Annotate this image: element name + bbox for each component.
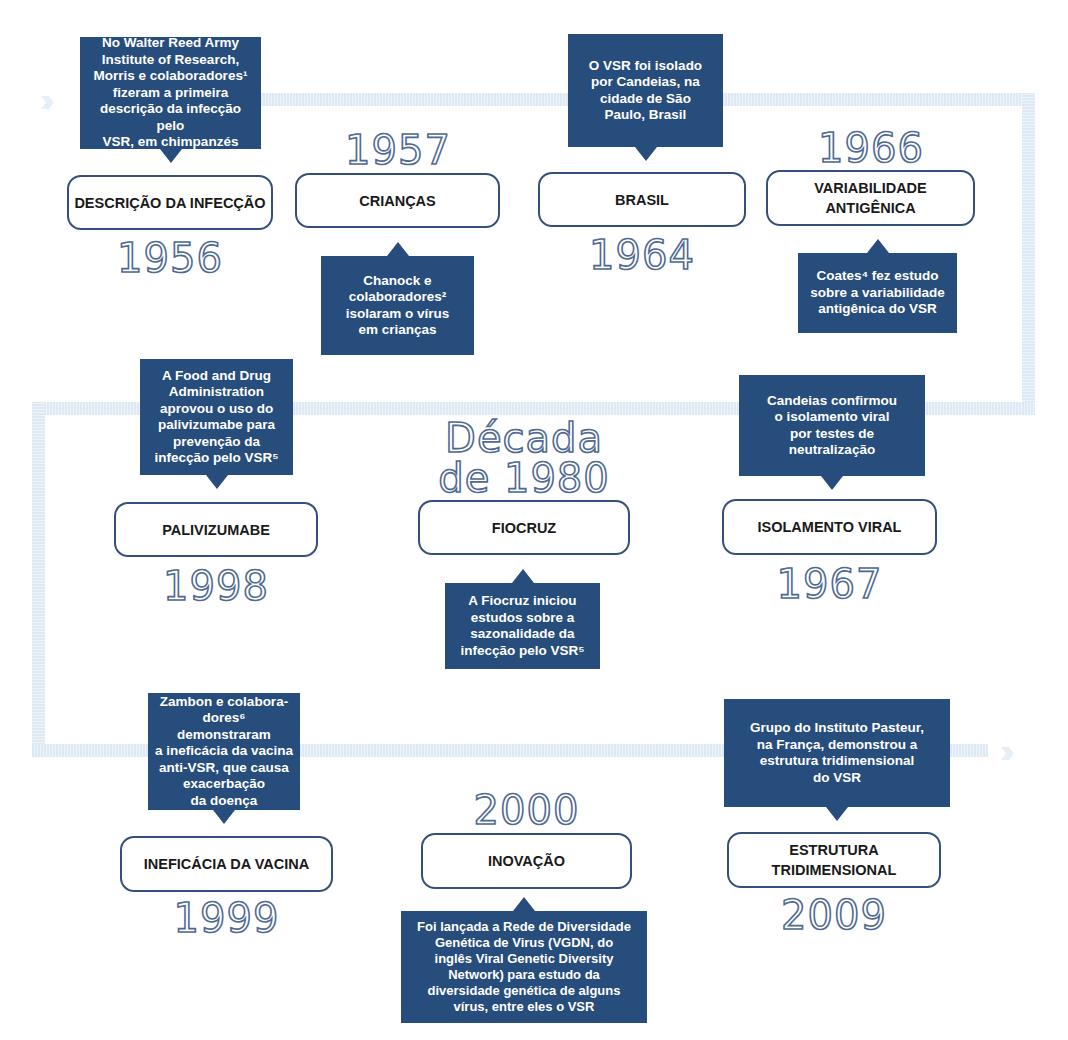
year-1966: 1966 bbox=[767, 128, 975, 168]
event-box-isolamento-viral: ISOLAMENTO VIRAL bbox=[722, 499, 937, 555]
event-box-brasil: BRASIL bbox=[538, 172, 746, 227]
callout-variabilidade-antigenica: Coates⁴ fez estudo sobre a variabilidade… bbox=[798, 253, 957, 333]
callout-palivizumabe: A Food and Drug Administration aprovou o… bbox=[140, 359, 293, 475]
start-chevron-icon: ›› bbox=[40, 82, 47, 116]
year-1956: 1956 bbox=[67, 238, 273, 278]
year-1957: 1957 bbox=[295, 130, 501, 170]
callout-ineficacia-vacina: Zambon e colabora- dores⁶ demonstraram a… bbox=[148, 693, 300, 810]
year-decada-1980: Década de 1980 bbox=[418, 418, 630, 498]
event-box-ineficacia-vacina: INEFICÁCIA DA VACINA bbox=[120, 836, 333, 892]
event-box-variabilidade-antigenica: VARIABILIDADE ANTIGÊNICA bbox=[766, 170, 975, 226]
event-box-criancas: CRIANÇAS bbox=[295, 173, 500, 228]
timeline-track-right-connector bbox=[1022, 93, 1035, 415]
callout-estrutura-tridimensional: Grupo do Instituto Pasteur, na França, d… bbox=[724, 699, 950, 807]
end-chevron-icon: ›› bbox=[1000, 733, 1007, 767]
callout-inovacao: Foi lançada a Rede de Diversidade Genéti… bbox=[401, 911, 647, 1023]
event-box-palivizumabe: PALIVIZUMABE bbox=[114, 502, 318, 557]
event-box-fiocruz: FIOCRUZ bbox=[418, 500, 630, 555]
callout-fiocruz: A Fiocruz iniciou estudos sobre a sazona… bbox=[445, 583, 600, 669]
callout-isolamento-viral: Candeias confirmou o isolamento viral po… bbox=[739, 375, 925, 476]
callout-brasil: O VSR foi isolado por Candeias, na cidad… bbox=[568, 34, 723, 147]
year-2000: 2000 bbox=[421, 790, 632, 830]
timeline-track-left-connector bbox=[32, 402, 45, 757]
event-box-inovacao: INOVAÇÃO bbox=[421, 833, 632, 889]
callout-descricao-infeccao: No Walter Reed Army Institute of Researc… bbox=[80, 37, 261, 149]
event-box-descricao-infeccao: DESCRIÇÃO DA INFECÇÃO bbox=[67, 175, 273, 230]
year-1998: 1998 bbox=[114, 566, 318, 606]
year-1964: 1964 bbox=[538, 235, 746, 275]
callout-criancas: Chanock e colaboradores² isolaram o víru… bbox=[321, 256, 474, 355]
year-1967: 1967 bbox=[722, 564, 937, 604]
year-1999: 1999 bbox=[120, 898, 333, 938]
event-box-estrutura-tridimensional: ESTRUTURA TRIDIMENSIONAL bbox=[727, 832, 941, 888]
year-2009: 2009 bbox=[727, 895, 941, 935]
